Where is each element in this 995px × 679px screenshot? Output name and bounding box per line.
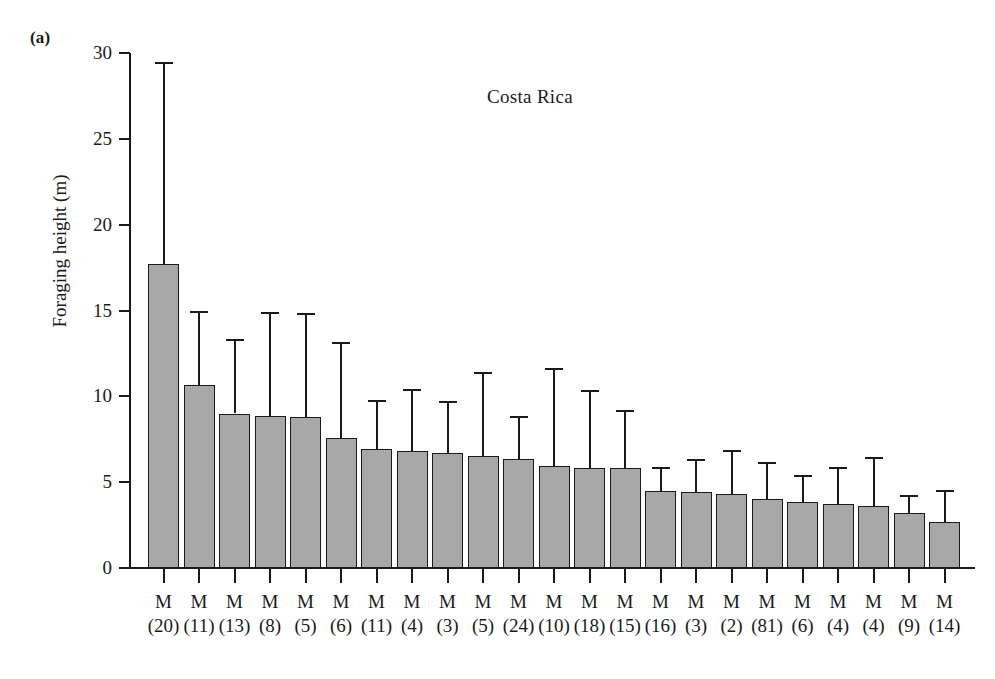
bar	[326, 438, 357, 568]
error-bar-stem	[589, 390, 591, 467]
y-tick-5	[119, 481, 130, 483]
bar	[681, 492, 712, 568]
x-tick	[837, 569, 839, 583]
y-tick-15	[119, 310, 130, 312]
error-bar-cap	[510, 416, 528, 418]
error-bar-cap	[900, 495, 918, 497]
x-tick	[802, 569, 804, 583]
error-bar-stem	[198, 311, 200, 386]
error-bar-stem	[660, 467, 662, 491]
x-label-sample-size: (14)	[921, 614, 969, 638]
bar	[610, 468, 641, 568]
bar	[184, 385, 215, 568]
y-tick-0	[119, 567, 130, 569]
bar	[503, 459, 534, 568]
x-tick	[589, 569, 591, 583]
error-bar-stem	[482, 372, 484, 455]
error-bar-stem	[411, 389, 413, 452]
y-tick-label-15: 15	[72, 301, 112, 320]
error-bar-stem	[695, 459, 697, 492]
x-tick	[305, 569, 307, 583]
error-bar-stem	[234, 339, 236, 414]
error-bar-stem	[873, 457, 875, 506]
bar	[468, 456, 499, 568]
error-bar-cap	[155, 62, 173, 64]
x-tick	[944, 569, 946, 583]
error-bar-stem	[944, 490, 946, 522]
x-tick	[624, 569, 626, 583]
bar	[539, 466, 570, 568]
bar	[290, 417, 321, 568]
error-bar-stem	[553, 368, 555, 466]
error-bar-stem	[305, 313, 307, 417]
bar	[361, 449, 392, 568]
error-bar-stem	[908, 495, 910, 513]
error-bar-cap	[581, 390, 599, 392]
x-tick	[553, 569, 555, 583]
error-bar-cap	[687, 459, 705, 461]
error-bar-cap	[332, 342, 350, 344]
x-tick	[198, 569, 200, 583]
bar	[716, 494, 747, 568]
error-bar-cap	[474, 372, 492, 374]
bar	[858, 506, 889, 568]
error-bar-cap	[936, 490, 954, 492]
error-bar-cap	[616, 410, 634, 412]
error-bar-stem	[269, 312, 271, 416]
bar	[645, 491, 676, 568]
error-bar-stem	[518, 416, 520, 459]
error-bar-stem	[447, 401, 449, 453]
figure-panel-a: (a) Costa Rica Foraging height (m) 05101…	[0, 0, 995, 679]
error-bar-cap	[439, 401, 457, 403]
x-tick	[411, 569, 413, 583]
error-bar-cap	[226, 339, 244, 341]
x-tick	[695, 569, 697, 583]
bar	[432, 453, 463, 568]
error-bar-stem	[731, 450, 733, 495]
y-tick-label-0: 0	[72, 558, 112, 577]
bar	[397, 451, 428, 568]
error-bar-stem	[766, 462, 768, 500]
y-tick-10	[119, 395, 130, 397]
error-bar-stem	[376, 400, 378, 449]
x-tick	[269, 569, 271, 583]
y-tick-20	[119, 224, 130, 226]
x-tick	[766, 569, 768, 583]
bar	[787, 502, 818, 568]
x-tick	[908, 569, 910, 583]
bar	[894, 513, 925, 568]
error-bar-stem	[624, 410, 626, 468]
y-tick-25	[119, 138, 130, 140]
error-bar-cap	[652, 467, 670, 469]
x-tick	[873, 569, 875, 583]
error-bar-stem	[802, 475, 804, 502]
error-bar-cap	[190, 311, 208, 313]
x-tick	[660, 569, 662, 583]
bar	[752, 499, 783, 568]
y-tick-label-20: 20	[72, 215, 112, 234]
y-tick-label-10: 10	[72, 386, 112, 405]
bar	[929, 522, 960, 568]
error-bar-cap	[829, 467, 847, 469]
x-tick	[518, 569, 520, 583]
error-bar-cap	[297, 313, 315, 315]
y-tick-30	[119, 52, 130, 54]
bar	[219, 414, 250, 569]
x-label-sex: M	[921, 590, 969, 614]
bar	[823, 504, 854, 568]
y-tick-label-5: 5	[72, 472, 112, 491]
error-bar-cap	[368, 400, 386, 402]
x-tick	[163, 569, 165, 583]
x-tick	[447, 569, 449, 583]
x-axis-label-group: M(14)	[921, 590, 969, 639]
bar	[148, 264, 179, 568]
bar	[255, 416, 286, 568]
x-tick	[340, 569, 342, 583]
x-tick	[482, 569, 484, 583]
x-tick	[234, 569, 236, 583]
x-tick	[376, 569, 378, 583]
error-bar-cap	[794, 475, 812, 477]
plot-area: 051015202530 M(20)M(11)M(13)M(8)M(5)M(6)…	[0, 0, 995, 679]
y-tick-label-25: 25	[72, 129, 112, 148]
error-bar-cap	[758, 462, 776, 464]
